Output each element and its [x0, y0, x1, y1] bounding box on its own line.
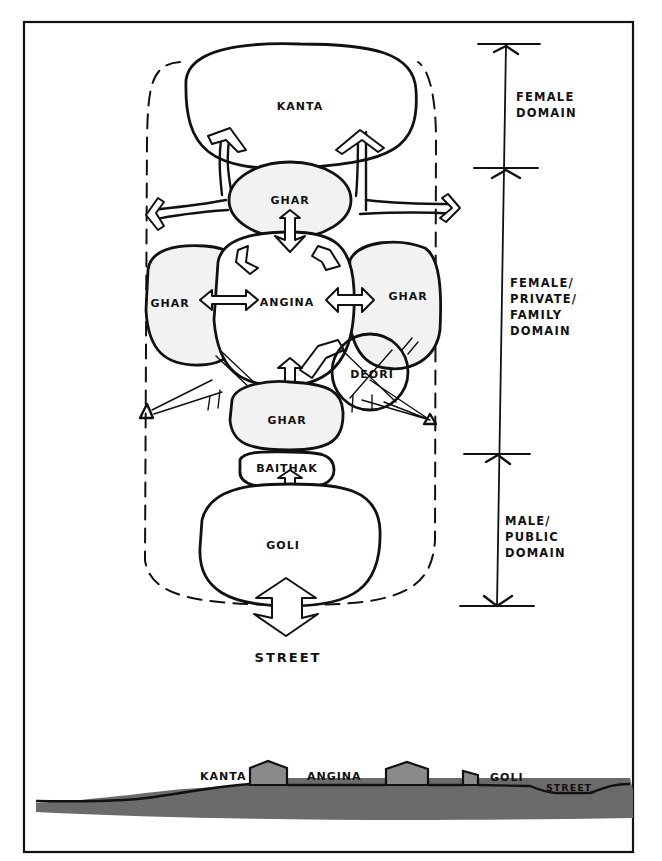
svg-text:DOMAIN: DOMAIN: [505, 546, 566, 560]
svg-text:MALE/: MALE/: [505, 514, 551, 528]
section-label-street: STREET: [546, 782, 592, 793]
svg-text:PRIVATE/: PRIVATE/: [510, 292, 577, 306]
section-building-2: [386, 762, 428, 785]
room-ghar-bottom: GHAR: [230, 382, 343, 450]
svg-text:FEMALE/: FEMALE/: [510, 276, 574, 290]
svg-text:DOMAIN: DOMAIN: [516, 106, 577, 120]
section-building-1: [250, 761, 287, 785]
domain-diagram: KANTA GHAR GHAR GHAR ANGINA: [0, 0, 662, 861]
label-kanta: KANTA: [277, 100, 323, 113]
zone-female-private-family-domain: FEMALE/ PRIVATE/ FAMILY DOMAIN: [510, 276, 577, 338]
section-elevation: KANTA ANGINA GOLI STREET: [36, 761, 633, 820]
domain-scale-bar: FEMALE DOMAIN FEMALE/ PRIVATE/ FAMILY DO…: [460, 44, 577, 606]
svg-text:FAMILY: FAMILY: [510, 308, 562, 322]
label-ghar-bottom: GHAR: [267, 414, 306, 427]
section-label-angina: ANGINA: [307, 770, 362, 783]
section-label-goli: GOLI: [490, 771, 523, 784]
svg-text:FEMALE: FEMALE: [516, 90, 574, 104]
label-ghar-top: GHAR: [270, 194, 309, 207]
label-angina: ANGINA: [260, 296, 315, 309]
zone-female-domain: FEMALE DOMAIN: [516, 90, 577, 120]
section-building-3: [463, 771, 478, 785]
svg-text:PUBLIC: PUBLIC: [505, 530, 559, 544]
zone-male-public-domain: MALE/ PUBLIC DOMAIN: [505, 514, 566, 560]
room-goli: GOLI: [200, 484, 380, 636]
observer-right-icon: [424, 414, 436, 424]
section-label-kanta: KANTA: [200, 770, 246, 783]
label-ghar-right: GHAR: [388, 290, 427, 303]
svg-text:DOMAIN: DOMAIN: [510, 324, 571, 338]
label-deori: DEORI: [350, 368, 394, 381]
label-ghar-left: GHAR: [150, 297, 189, 310]
label-street: STREET: [255, 650, 322, 665]
label-goli: GOLI: [266, 539, 299, 552]
